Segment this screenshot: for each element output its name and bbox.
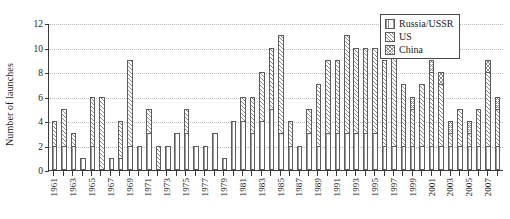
bar-segment-us-1993[interactable] xyxy=(353,48,358,134)
bar-segment-russia-ussr-1976[interactable] xyxy=(193,146,198,171)
bar-segment-russia-ussr-1978[interactable] xyxy=(212,133,217,170)
bar-group-1982[interactable] xyxy=(248,24,257,170)
bar-segment-russia-ussr-1984[interactable] xyxy=(269,109,274,170)
bar-segment-us-2008[interactable] xyxy=(495,109,500,146)
bar-segment-russia-ussr-2000[interactable] xyxy=(419,146,424,171)
bar-group-1979[interactable] xyxy=(220,24,229,170)
bar-segment-us-1969[interactable] xyxy=(127,60,132,146)
bar-group-2005[interactable] xyxy=(465,24,474,170)
bar-segment-russia-ussr-1985[interactable] xyxy=(278,133,283,170)
bar-segment-us-2007[interactable] xyxy=(485,72,490,146)
bar-segment-us-1984[interactable] xyxy=(269,48,274,109)
bar-segment-us-1982[interactable] xyxy=(250,97,255,134)
bar-segment-china-2002[interactable] xyxy=(438,72,443,84)
bar-segment-us-1981[interactable] xyxy=(240,97,245,122)
bar-segment-russia-ussr-1962[interactable] xyxy=(61,146,66,171)
bar-segment-russia-ussr-1968[interactable] xyxy=(118,158,123,170)
bar-segment-russia-ussr-1964[interactable] xyxy=(80,158,85,170)
bar-segment-us-1983[interactable] xyxy=(259,72,264,121)
bar-group-1961[interactable] xyxy=(50,24,59,170)
bar-segment-russia-ussr-2001[interactable] xyxy=(429,146,434,171)
bar-segment-russia-ussr-1988[interactable] xyxy=(306,133,311,170)
bar-segment-china-2001[interactable] xyxy=(429,60,434,72)
bar-segment-russia-ussr-1979[interactable] xyxy=(222,158,227,170)
bar-segment-us-1989[interactable] xyxy=(316,84,321,145)
bar-segment-us-2006[interactable] xyxy=(476,109,481,146)
bar-segment-us-1992[interactable] xyxy=(344,35,349,133)
bar-segment-russia-ussr-1986[interactable] xyxy=(288,146,293,171)
bar-segment-us-1972[interactable] xyxy=(156,146,161,171)
bar-segment-us-1994[interactable] xyxy=(363,48,368,134)
bar-group-1966[interactable] xyxy=(97,24,106,170)
bar-segment-russia-ussr-2008[interactable] xyxy=(495,146,500,171)
bar-segment-us-1986[interactable] xyxy=(288,121,293,146)
bar-segment-us-1961[interactable] xyxy=(52,121,57,146)
bar-group-2007[interactable] xyxy=(483,24,492,170)
bar-group-1974[interactable] xyxy=(172,24,181,170)
bar-group-1964[interactable] xyxy=(78,24,87,170)
bar-segment-russia-ussr-1967[interactable] xyxy=(109,158,114,170)
bar-segment-us-1998[interactable] xyxy=(401,84,406,145)
bar-segment-russia-ussr-1987[interactable] xyxy=(297,146,302,171)
bar-group-1990[interactable] xyxy=(323,24,332,170)
bar-group-1991[interactable] xyxy=(333,24,342,170)
bar-group-1986[interactable] xyxy=(286,24,295,170)
bar-group-1971[interactable] xyxy=(144,24,153,170)
bar-segment-china-2005[interactable] xyxy=(467,121,472,133)
bar-segment-russia-ussr-1990[interactable] xyxy=(325,133,330,170)
bar-group-1967[interactable] xyxy=(107,24,116,170)
bar-segment-russia-ussr-1971[interactable] xyxy=(146,133,151,170)
bar-segment-russia-ussr-1999[interactable] xyxy=(410,146,415,171)
bar-segment-russia-ussr-1995[interactable] xyxy=(372,133,377,170)
bar-segment-us-1971[interactable] xyxy=(146,109,151,134)
bar-group-1987[interactable] xyxy=(295,24,304,170)
bar-segment-us-2000[interactable] xyxy=(419,84,424,145)
bar-group-1962[interactable] xyxy=(59,24,68,170)
bar-segment-russia-ussr-1981[interactable] xyxy=(240,121,245,170)
bar-segment-us-1962[interactable] xyxy=(61,109,66,146)
bar-segment-russia-ussr-1961[interactable] xyxy=(52,146,57,171)
bar-segment-us-1995[interactable] xyxy=(372,48,377,134)
bar-segment-us-1963[interactable] xyxy=(71,133,76,145)
bar-segment-china-2007[interactable] xyxy=(485,60,490,72)
bar-group-1988[interactable] xyxy=(304,24,313,170)
bar-segment-russia-ussr-1977[interactable] xyxy=(203,146,208,171)
bar-group-1965[interactable] xyxy=(88,24,97,170)
bar-segment-russia-ussr-1965[interactable] xyxy=(90,146,95,171)
bar-segment-us-2005[interactable] xyxy=(467,133,472,145)
bar-segment-russia-ussr-2005[interactable] xyxy=(467,146,472,171)
bar-segment-russia-ussr-1994[interactable] xyxy=(363,133,368,170)
bar-segment-russia-ussr-1996[interactable] xyxy=(382,146,387,171)
bar-group-1968[interactable] xyxy=(116,24,125,170)
bar-segment-us-1975[interactable] xyxy=(184,109,189,134)
bar-segment-us-1997[interactable] xyxy=(391,48,396,146)
bar-segment-russia-ussr-1992[interactable] xyxy=(344,133,349,170)
bar-group-1975[interactable] xyxy=(182,24,191,170)
bar-segment-us-1968[interactable] xyxy=(118,121,123,158)
bar-segment-russia-ussr-1969[interactable] xyxy=(127,146,132,171)
bar-segment-us-1988[interactable] xyxy=(306,109,311,134)
bar-group-1970[interactable] xyxy=(135,24,144,170)
bar-segment-russia-ussr-1998[interactable] xyxy=(401,146,406,171)
bar-segment-us-1996[interactable] xyxy=(382,60,387,146)
bar-segment-russia-ussr-2007[interactable] xyxy=(485,146,490,171)
bar-group-1989[interactable] xyxy=(314,24,323,170)
bar-segment-us-2002[interactable] xyxy=(438,84,443,145)
bar-segment-us-1965[interactable] xyxy=(90,97,95,146)
bar-segment-china-1999[interactable] xyxy=(410,97,415,109)
bar-group-1995[interactable] xyxy=(370,24,379,170)
bar-segment-us-1999[interactable] xyxy=(410,109,415,146)
bar-segment-china-2003[interactable] xyxy=(448,121,453,133)
bar-segment-russia-ussr-1997[interactable] xyxy=(391,146,396,171)
bar-segment-russia-ussr-2002[interactable] xyxy=(438,146,443,171)
bar-segment-russia-ussr-1989[interactable] xyxy=(316,146,321,171)
legend-item-china[interactable]: China xyxy=(385,44,453,55)
bar-group-1984[interactable] xyxy=(267,24,276,170)
bar-segment-us-1966[interactable] xyxy=(99,97,104,171)
bar-segment-russia-ussr-1975[interactable] xyxy=(184,133,189,170)
bar-segment-russia-ussr-1983[interactable] xyxy=(259,121,264,170)
bar-segment-us-2003[interactable] xyxy=(448,133,453,145)
bar-group-1980[interactable] xyxy=(229,24,238,170)
bar-group-1983[interactable] xyxy=(257,24,266,170)
legend-item-us[interactable]: US xyxy=(385,31,453,42)
